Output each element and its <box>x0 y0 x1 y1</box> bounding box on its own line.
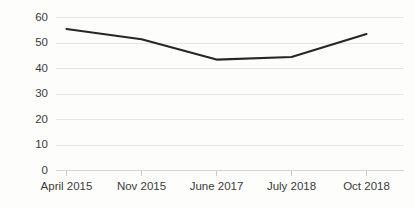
x-tick-label-oct-2018: Oct 2018 <box>343 180 390 192</box>
y-tick-label-0: 0 <box>42 164 48 176</box>
x-tick-label-april-2015: April 2015 <box>41 180 93 192</box>
y-tick-label-10: 10 <box>35 138 48 150</box>
line-chart: 60 50 40 30 20 10 0 April 2015 Nov 2015 … <box>0 0 414 208</box>
y-tick-label-30: 30 <box>35 87 48 99</box>
y-tick-label-60: 60 <box>35 11 48 23</box>
y-tick-label-20: 20 <box>35 113 48 125</box>
x-tick-label-july-2018: July 2018 <box>267 180 316 192</box>
y-tick-label-40: 40 <box>35 62 48 74</box>
x-tick-label-june-2017: June 2017 <box>190 180 244 192</box>
chart-background <box>0 0 414 208</box>
chart-canvas: 60 50 40 30 20 10 0 April 2015 Nov 2015 … <box>0 0 414 208</box>
x-tick-label-nov-2015: Nov 2015 <box>117 180 166 192</box>
y-tick-label-50: 50 <box>35 36 48 48</box>
